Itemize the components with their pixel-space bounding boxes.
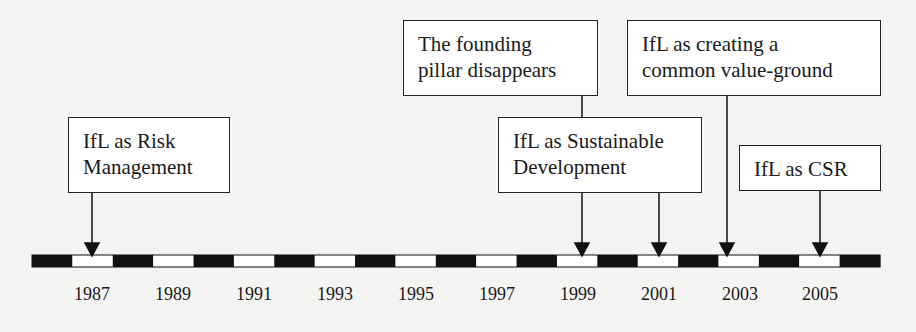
- event-box-common-value-ground: IfL as creating a common value-ground: [627, 20, 881, 96]
- timeline-segment-dark: [274, 255, 315, 267]
- timeline-segment-dark: [840, 255, 881, 267]
- timeline-segment-dark: [32, 255, 73, 267]
- timeline-segment-light: [557, 255, 598, 267]
- timeline-segment-light: [315, 255, 356, 267]
- year-label: 1987: [62, 284, 122, 305]
- timeline-segment-dark: [194, 255, 235, 267]
- year-label: 1997: [467, 284, 527, 305]
- timeline-segment-light: [72, 255, 113, 267]
- timeline-segment-light: [799, 255, 840, 267]
- timeline-segment-dark: [597, 255, 638, 267]
- arrow-1987-head-icon: [85, 243, 99, 256]
- timeline-segment-dark: [113, 255, 154, 267]
- year-label: 1991: [224, 284, 284, 305]
- timeline-segment-light: [718, 255, 759, 267]
- timeline-segment-light: [638, 255, 679, 267]
- timeline-segment-dark: [436, 255, 477, 267]
- event-box-founding-pillar: The founding pillar disappears: [403, 20, 598, 96]
- year-label: 1993: [305, 284, 365, 305]
- timeline-segment-dark: [759, 255, 800, 267]
- arrow-2005-head-icon: [813, 243, 827, 256]
- timeline-bar: [32, 255, 880, 267]
- timeline-segment-light: [476, 255, 517, 267]
- timeline-segment-light: [395, 255, 436, 267]
- year-label: 1995: [386, 284, 446, 305]
- event-box-csr: IfL as CSR: [739, 145, 881, 191]
- arrow-2001-head-icon: [652, 243, 666, 256]
- timeline-segment-light: [153, 255, 194, 267]
- arrow-1999-head-icon: [575, 243, 589, 256]
- arrow-2003-head-icon: [720, 243, 734, 256]
- event-box-risk-management: IfL as Risk Management: [68, 117, 230, 193]
- year-label: 1999: [548, 284, 608, 305]
- year-label: 2005: [790, 284, 850, 305]
- timeline-segment-dark: [355, 255, 396, 267]
- timeline-segment-light: [234, 255, 275, 267]
- year-label: 2003: [710, 284, 770, 305]
- year-label: 1989: [143, 284, 203, 305]
- event-box-sustainable-development: IfL as Sustainable Development: [498, 117, 702, 193]
- year-label: 2001: [629, 284, 689, 305]
- timeline-segment-dark: [517, 255, 558, 267]
- timeline-segment-dark: [678, 255, 719, 267]
